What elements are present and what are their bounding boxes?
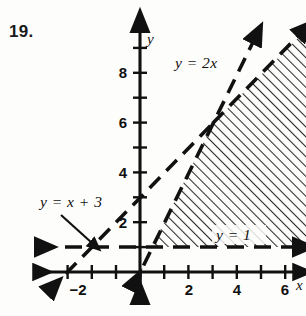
x-tick-label-4: 4 xyxy=(233,281,242,298)
y-tick-label-6: 6 xyxy=(119,114,127,131)
annotation-y-equals-2x: y = 2x xyxy=(173,54,218,71)
y-tick-label-8: 8 xyxy=(119,64,127,81)
x-tick-label-6: 6 xyxy=(281,281,289,298)
annotation-y-equals-1-group: y = 1 xyxy=(212,225,266,244)
y-axis-label: y xyxy=(145,31,154,47)
graph-figure: 19. xyxy=(0,0,306,316)
annotation-y-equals-1: y = 1 xyxy=(214,226,251,243)
y-tick-label-2: 2 xyxy=(119,214,127,231)
x-tick-label-2: 2 xyxy=(185,281,193,298)
annotation-y-equals-x-plus-3: y = x + 3 xyxy=(38,193,102,210)
pointer-arrow-x-plus-3 xyxy=(61,215,92,243)
problem-number: 19. xyxy=(9,22,34,42)
coordinate-plane-svg: y x −2 2 4 6 2 4 6 8 y = 2x y = x + 3 y … xyxy=(0,0,306,316)
y-tick-label-4: 4 xyxy=(119,164,128,181)
x-tick-label-neg2: −2 xyxy=(69,281,86,298)
x-axis-label: x xyxy=(295,277,303,293)
